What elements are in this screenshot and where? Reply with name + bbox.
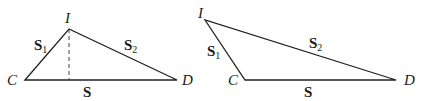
left-triangle: I C D S1 S2 S — [7, 10, 193, 100]
right-side-s1-label: S1 — [207, 43, 220, 61]
left-side-s2-label: S2 — [124, 37, 137, 55]
left-side-s-label: S — [83, 84, 91, 100]
left-triangle-outline — [25, 29, 177, 80]
left-vertex-d-label: D — [181, 72, 193, 88]
left-vertex-c-label: C — [7, 72, 18, 88]
right-triangle-outline — [205, 20, 396, 80]
right-side-s-label: S — [304, 84, 312, 100]
right-vertex-i-label: I — [197, 5, 204, 21]
right-side-s2-label: S2 — [309, 35, 322, 53]
right-vertex-c-label: C — [228, 72, 239, 88]
right-vertex-d-label: D — [403, 72, 415, 88]
left-vertex-i-label: I — [64, 10, 71, 26]
left-side-s1-label: S1 — [34, 37, 47, 55]
diagram-canvas: I C D S1 S2 S I C D S1 S2 S — [0, 0, 422, 101]
right-triangle: I C D S1 S2 S — [197, 5, 415, 100]
triangles-figure: I C D S1 S2 S I C D S1 S2 S — [0, 0, 422, 101]
